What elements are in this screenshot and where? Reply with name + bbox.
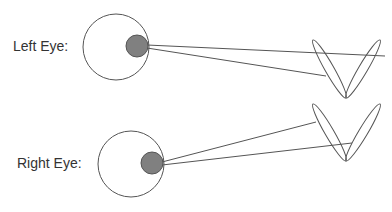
left-v-left-arm — [309, 38, 350, 100]
left-eye-group — [83, 14, 385, 100]
right-v-right-arm — [342, 102, 384, 164]
eye-diagram — [0, 0, 392, 212]
right-v-left-arm — [309, 102, 350, 164]
left-v-right-arm — [342, 38, 384, 101]
right-eye-group — [98, 102, 384, 197]
right-pupil — [141, 152, 163, 174]
left-ray-1 — [147, 45, 385, 56]
right-ray-2 — [162, 143, 352, 165]
left-pupil — [126, 35, 148, 57]
